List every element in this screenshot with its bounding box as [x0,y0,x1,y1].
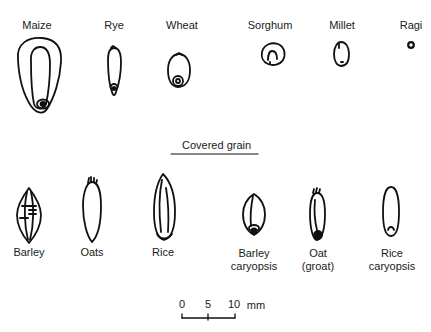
label-oat-groat: Oat (groat) [302,247,334,273]
rye-grain-icon [108,46,121,95]
label-rice: Rice [152,246,174,259]
grain-drawings [0,0,431,332]
label-oats: Oats [80,246,103,259]
oats-grain-icon [83,177,101,242]
label-maize: Maize [22,19,51,32]
label-rice-line1: Rice [152,246,174,259]
label-barley-line1: Barley [13,246,44,259]
barley-grain-icon [17,188,41,243]
millet-grain-icon [334,42,349,66]
wheat-grain-icon [168,53,190,87]
label-millet: Millet [329,19,355,32]
barley-caryopsis-icon [243,194,265,235]
rice-caryopsis-icon [383,187,399,236]
label-oat-groat-line1: Oat [302,247,334,260]
scale-unit: mm [247,299,265,312]
scale-tick-5: 5 [205,298,211,311]
label-oats-line1: Oats [80,246,103,259]
label-rye: Rye [104,19,124,32]
label-barley: Barley [13,246,44,259]
label-rice-caryopsis-line1: Rice [369,247,415,260]
rice-grain-icon [154,174,175,240]
label-barley-caryopsis: Barley caryopsis [231,247,277,273]
grain-comparison-figure: Maize Rye Wheat Sorghum Millet Ragi Cove… [0,0,431,332]
covered-grain-heading: Covered grain [182,139,251,152]
oat-groat-icon [310,188,325,240]
label-ragi: Ragi [400,19,423,32]
sorghum-grain-icon [262,43,285,65]
scale-bar [182,314,235,320]
label-rice-caryopsis-line2: caryopsis [369,260,415,273]
label-wheat: Wheat [166,19,198,32]
label-barley-caryopsis-line1: Barley [231,247,277,260]
label-rice-caryopsis: Rice caryopsis [369,247,415,273]
label-oat-groat-line2: (groat) [302,260,334,273]
label-barley-caryopsis-line2: caryopsis [231,260,277,273]
ragi-grain-icon [408,42,414,48]
scale-tick-0: 0 [179,298,185,311]
label-sorghum: Sorghum [248,19,293,32]
maize-grain-icon [18,38,61,113]
scale-tick-10: 10 [228,298,240,311]
